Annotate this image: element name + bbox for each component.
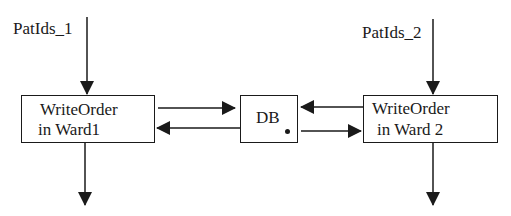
db-marker-dot xyxy=(285,129,290,134)
node-ward1-line1: WriteOrder xyxy=(40,101,118,118)
node-writeorder-ward1: WriteOrder in Ward1 xyxy=(21,95,155,143)
node-db: DB xyxy=(240,95,298,143)
node-db-label: DB xyxy=(256,109,280,126)
node-writeorder-ward2: WriteOrder in Ward 2 xyxy=(363,95,498,143)
node-ward2-line1: WriteOrder xyxy=(372,100,450,117)
input-label-patids1: PatIds_1 xyxy=(13,20,73,37)
input-label-patids2: PatIds_2 xyxy=(362,24,422,41)
node-ward1-line2: in Ward1 xyxy=(38,121,100,138)
node-ward2-line2: in Ward 2 xyxy=(377,121,443,138)
